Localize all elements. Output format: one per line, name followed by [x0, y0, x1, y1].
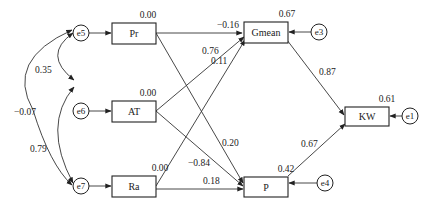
svg-text:Gmean: Gmean	[252, 27, 281, 38]
error-e5: e5	[73, 25, 89, 41]
node-pr: Pr 0.00	[112, 10, 157, 44]
covariance-e5-e6	[58, 33, 74, 80]
svg-text:e5: e5	[77, 28, 86, 38]
error-e4: e4	[317, 175, 333, 191]
path-label-pr-p: 0.20	[222, 138, 239, 148]
node-kw: KW 0.61	[345, 94, 396, 126]
r2-pr: 0.00	[140, 10, 157, 20]
path-label-at-gmean: 0.76	[202, 46, 219, 56]
error-e3: e3	[311, 24, 327, 40]
cov-label-e5-e7: −0.07	[14, 107, 36, 117]
cov-label-e5-e6: 0.35	[35, 65, 52, 75]
svg-text:AT: AT	[128, 106, 140, 117]
path-label-ra-gmean: 0.11	[211, 56, 228, 66]
svg-text:e1: e1	[406, 111, 415, 121]
svg-text:KW: KW	[359, 111, 376, 122]
svg-text:Pr: Pr	[130, 28, 140, 39]
svg-text:P: P	[263, 182, 269, 193]
svg-text:e3: e3	[315, 27, 324, 37]
error-e6: e6	[73, 103, 89, 119]
node-p: P 0.42	[244, 164, 295, 197]
r2-ra: 0.00	[152, 163, 169, 173]
svg-text:Ra: Ra	[128, 181, 140, 192]
svg-text:e7: e7	[77, 181, 86, 191]
svg-text:e6: e6	[77, 106, 86, 116]
r2-kw: 0.61	[379, 94, 396, 104]
node-gmean: Gmean 0.67	[244, 9, 296, 43]
path-label-at-p: −0.84	[188, 158, 210, 168]
path-label-gmean-kw: 0.87	[319, 67, 336, 77]
covariance-e6-e7	[58, 87, 74, 183]
path-label-ra-p: 0.18	[203, 176, 220, 186]
cov-label-e6-e7: 0.79	[30, 144, 47, 154]
path-label-p-kw: 0.67	[301, 139, 318, 149]
r2-at: 0.00	[140, 88, 157, 98]
error-e7: e7	[73, 178, 89, 194]
svg-text:e4: e4	[321, 178, 330, 188]
r2-gmean: 0.67	[279, 9, 296, 19]
error-e1: e1	[402, 108, 418, 124]
node-at: AT 0.00	[112, 88, 157, 122]
r2-p: 0.42	[278, 164, 295, 174]
path-diagram: 0.35 0.79 −0.07 −0.16 0.20 0.76 −0.84 0.…	[0, 0, 427, 210]
path-label-pr-gmean: −0.16	[217, 20, 239, 30]
